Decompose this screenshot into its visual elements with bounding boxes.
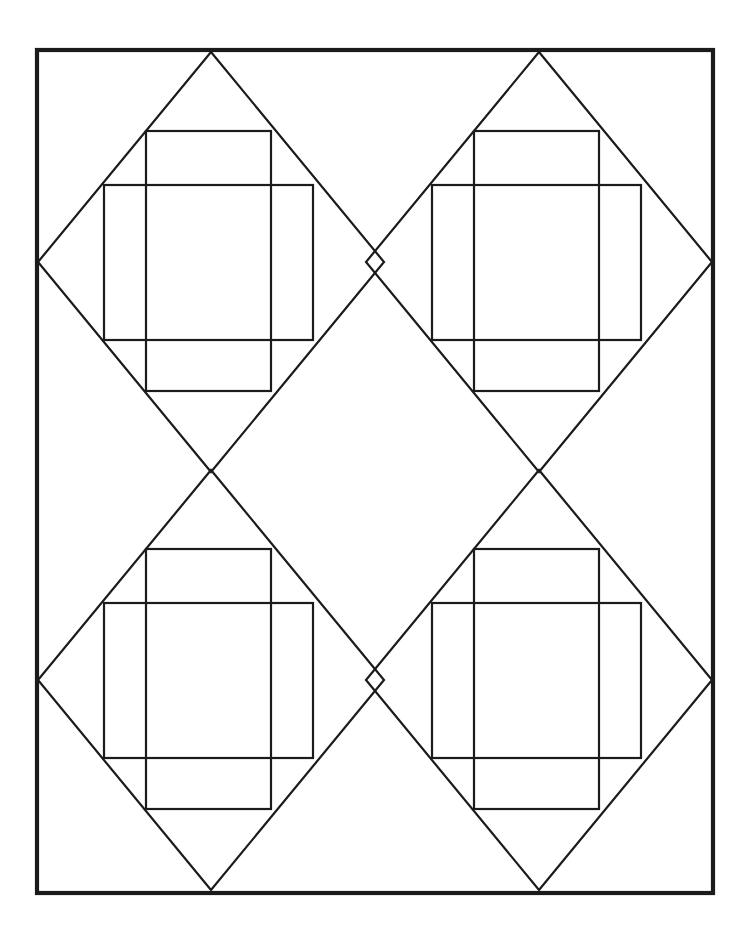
geometric-line-drawing	[0, 0, 755, 937]
figure-background	[0, 0, 755, 937]
figure-canvas	[0, 0, 755, 937]
